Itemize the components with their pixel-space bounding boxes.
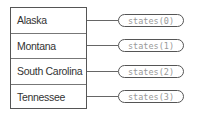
states-table: Alaska Montana South Carolina Tennessee: [10, 7, 87, 109]
connector-line: [87, 20, 118, 21]
table-row: Tennessee: [11, 85, 86, 111]
connector-line: [87, 71, 118, 72]
connector-line: [87, 96, 118, 97]
index-pill: states(2): [118, 65, 184, 78]
connector-line: [87, 45, 118, 46]
index-pill: states(3): [118, 90, 184, 103]
table-row: Alaska: [11, 8, 86, 34]
table-row: Montana: [11, 34, 86, 60]
table-row: South Carolina: [11, 59, 86, 85]
index-pill: states(1): [118, 39, 184, 52]
index-pill: states(0): [118, 14, 184, 27]
